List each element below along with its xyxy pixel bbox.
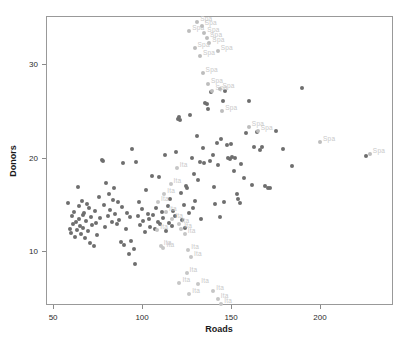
- y-tick-label: 30: [29, 60, 38, 69]
- x-tick-label: 200: [313, 313, 326, 322]
- plot-frame: [46, 16, 393, 305]
- x-tick-label: 150: [224, 313, 237, 322]
- x-tick-label: 100: [135, 313, 148, 322]
- x-tick-mark: [320, 305, 321, 309]
- y-tick-mark: [42, 158, 46, 159]
- x-axis-title: Roads: [205, 324, 233, 334]
- scatter-plot: SpaSpaSpaSpaSpaSpaSpaSpaSpaSpaSpaSpaSpaS…: [0, 0, 407, 348]
- x-tick-mark: [142, 305, 143, 309]
- y-tick-label: 20: [29, 153, 38, 162]
- y-tick-mark: [42, 64, 46, 65]
- y-axis-title: Donors: [8, 145, 18, 177]
- y-tick-label: 10: [29, 246, 38, 255]
- x-tick-mark: [231, 305, 232, 309]
- x-tick-mark: [53, 305, 54, 309]
- y-tick-mark: [42, 251, 46, 252]
- x-tick-label: 50: [49, 313, 58, 322]
